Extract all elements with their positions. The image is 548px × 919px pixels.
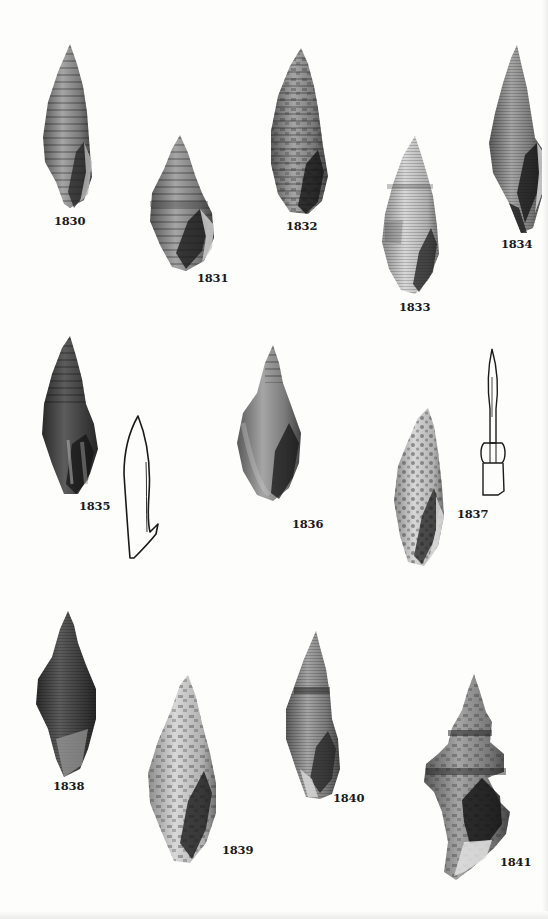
figure-label-1835: 1835 xyxy=(79,499,110,513)
shell-image xyxy=(40,42,102,210)
operculum-drawing-1835 xyxy=(120,414,162,560)
figure-label-1838: 1838 xyxy=(53,779,84,793)
shell-figure-1840 xyxy=(282,629,342,801)
figure-label-1839: 1839 xyxy=(222,843,253,857)
shell-figure-1838 xyxy=(32,609,100,779)
shell-figure-1830 xyxy=(40,42,102,210)
figure-label-1841: 1841 xyxy=(500,855,531,869)
shell-image xyxy=(418,672,522,884)
figure-label-1840: 1840 xyxy=(333,791,364,805)
shell-image xyxy=(392,406,446,568)
shell-figure-1831 xyxy=(146,133,218,273)
radula-tooth-drawing-1837 xyxy=(476,347,510,499)
figure-label-1833: 1833 xyxy=(399,300,430,314)
specimen-plate: 1830 1831 1832 1833 xyxy=(0,0,548,919)
shell-image xyxy=(146,133,218,273)
line-drawing xyxy=(120,414,162,560)
shell-image xyxy=(235,343,305,503)
figure-label-1834: 1834 xyxy=(501,237,532,251)
shell-figure-1833 xyxy=(379,134,443,296)
page-edge-shadow xyxy=(542,0,548,919)
shell-figure-1832 xyxy=(268,46,334,216)
shell-image xyxy=(32,609,100,779)
figure-label-1830: 1830 xyxy=(54,214,85,228)
shell-figure-1839 xyxy=(144,673,222,865)
figure-label-1831: 1831 xyxy=(197,271,228,285)
shell-image xyxy=(282,629,342,801)
shell-image xyxy=(38,334,100,496)
shell-image xyxy=(487,43,545,235)
figure-label-1832: 1832 xyxy=(286,219,317,233)
line-drawing xyxy=(476,347,510,499)
shell-figure-1841 xyxy=(418,672,522,884)
shell-figure-1834 xyxy=(487,43,545,235)
shell-image xyxy=(379,134,443,296)
shell-figure-1836 xyxy=(235,343,305,503)
shell-figure-1835 xyxy=(38,334,100,496)
figure-label-1836: 1836 xyxy=(292,517,323,531)
shell-image xyxy=(144,673,222,865)
shell-figure-1837 xyxy=(392,406,446,568)
shell-image xyxy=(268,46,334,216)
page-bottom-shadow xyxy=(0,911,548,919)
figure-label-1837: 1837 xyxy=(457,507,488,521)
